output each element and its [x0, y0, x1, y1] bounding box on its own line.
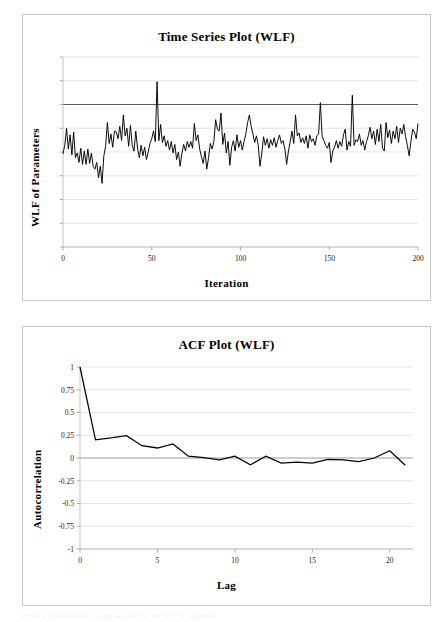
- svg-text:0.25: 0.25: [61, 431, 74, 440]
- svg-text:0.75: 0.75: [61, 386, 74, 395]
- time-series-plot-area: 050100150200: [23, 15, 432, 302]
- svg-text:-1: -1: [68, 545, 74, 554]
- svg-text:50: 50: [148, 254, 156, 263]
- svg-text:0.5: 0.5: [65, 408, 75, 417]
- svg-text:200: 200: [412, 254, 424, 263]
- svg-text:5: 5: [156, 556, 160, 565]
- svg-text:100: 100: [235, 254, 247, 263]
- svg-text:10: 10: [231, 556, 239, 565]
- svg-text:1: 1: [70, 363, 74, 372]
- svg-text:0: 0: [70, 454, 74, 463]
- acf-plot-area: -1-0.75-0.5-0.2500.250.50.75105101520: [23, 327, 432, 607]
- svg-text:-0.25: -0.25: [58, 477, 74, 486]
- svg-text:-0.5: -0.5: [62, 499, 74, 508]
- svg-text:0: 0: [78, 556, 82, 565]
- time-series-chart-panel: Time Series Plot (WLF) WLF of Parameters…: [22, 14, 431, 301]
- svg-text:-0.75: -0.75: [58, 522, 74, 531]
- svg-text:0: 0: [61, 254, 65, 263]
- svg-text:20: 20: [386, 556, 394, 565]
- svg-text:150: 150: [324, 254, 336, 263]
- acf-chart-panel: ACF Plot (WLF) Autocorrelation Lag -1-0.…: [22, 326, 431, 606]
- page-footer-caption: Figure 4.12 Time series plot and ACF plo…: [22, 612, 422, 618]
- svg-text:15: 15: [309, 556, 317, 565]
